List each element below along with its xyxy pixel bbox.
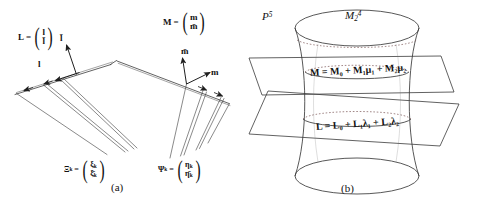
left-paren: ( bbox=[83, 160, 88, 180]
arrow-label-l-bar: l̄ bbox=[60, 34, 63, 43]
vector-Xi-equals: = bbox=[72, 166, 81, 174]
panel-b-surface-sections bbox=[297, 40, 417, 127]
vector-L-equals: = bbox=[24, 33, 33, 42]
vector-Psi-definition: Ψk = ( ηk η̄k ) bbox=[158, 160, 202, 180]
arrow-label-m-bar: m̄ bbox=[181, 47, 189, 56]
vector-Xi-top-subscript: k bbox=[94, 164, 97, 170]
vector-arrow-m bbox=[187, 73, 211, 85]
panel-b-caption: (b) bbox=[341, 183, 354, 194]
vector-arrow-m-bar bbox=[183, 58, 187, 84]
vector-Xi-definition: Ξk = ( ξk ξ̄k ) bbox=[64, 160, 106, 180]
projective-space-label: P5 bbox=[262, 11, 272, 22]
vector-Psi-bottom-subscript: k bbox=[190, 172, 193, 178]
right-paren: ) bbox=[48, 27, 53, 47]
vector-L-bottom: l̄ bbox=[42, 37, 45, 46]
surface-label: M24 bbox=[345, 10, 361, 23]
vector-Xi-bottom-subscript: k bbox=[94, 172, 97, 178]
vector-Psi-top-subscript: k bbox=[190, 164, 193, 170]
vector-M-bottom: m̄ bbox=[190, 22, 198, 31]
surface-label-exponent: 4 bbox=[358, 10, 362, 18]
panel-a-caption: (a) bbox=[111, 182, 123, 193]
vector-M-name: M bbox=[163, 18, 172, 27]
left-paren: ( bbox=[177, 160, 182, 180]
right-paren: ) bbox=[99, 160, 104, 180]
left-paren: ( bbox=[35, 27, 40, 47]
right-paren: ) bbox=[200, 12, 205, 32]
vector-L-definition: L = ( l l̄ ) bbox=[18, 27, 54, 47]
projective-space-exponent: 5 bbox=[269, 11, 273, 19]
surface-label-base: M bbox=[345, 9, 354, 21]
arrow-label-m: m bbox=[211, 68, 219, 77]
vector-M-definition: M = ( m m̄ ) bbox=[163, 12, 207, 32]
vector-arrow-l-bar bbox=[67, 45, 77, 75]
left-paren: ( bbox=[182, 12, 187, 32]
projective-space-base: P bbox=[262, 10, 269, 22]
right-paren: ) bbox=[195, 160, 200, 180]
figure-root: L = ( l l̄ ) M = ( m m̄ ) l̄ l m̄ m Ξk = bbox=[0, 0, 480, 209]
vector-Psi-equals: = bbox=[167, 166, 176, 174]
panel-a-surface bbox=[15, 61, 230, 159]
arrow-label-l: l bbox=[38, 60, 41, 69]
vector-M-equals: = bbox=[172, 18, 181, 27]
